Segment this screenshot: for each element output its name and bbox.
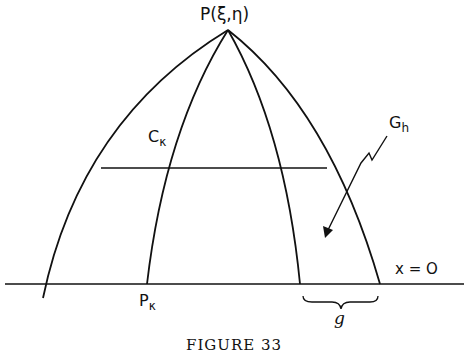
ck-main: C <box>148 127 159 146</box>
figure-caption: FIGURE 33 <box>186 338 282 353</box>
inner-left-characteristic <box>147 30 228 284</box>
arrowhead-icon <box>323 226 333 238</box>
brace-label: g <box>334 310 345 327</box>
inner-right-characteristic <box>228 30 300 284</box>
pk-sub: κ <box>149 299 156 313</box>
outer-left-characteristic <box>43 30 228 298</box>
pk-label: Pκ <box>139 293 156 309</box>
outer-right-characteristic <box>228 30 380 284</box>
ck-label: Cκ <box>148 129 166 145</box>
gh-label: Gh <box>389 115 409 131</box>
gh-sub: h <box>401 121 409 135</box>
pk-main: P <box>139 291 149 310</box>
apex-label: P(ξ,η) <box>200 6 249 23</box>
ck-sub: κ <box>159 135 166 149</box>
gh-main: G <box>389 113 401 132</box>
axis-label: x = O <box>395 262 438 277</box>
